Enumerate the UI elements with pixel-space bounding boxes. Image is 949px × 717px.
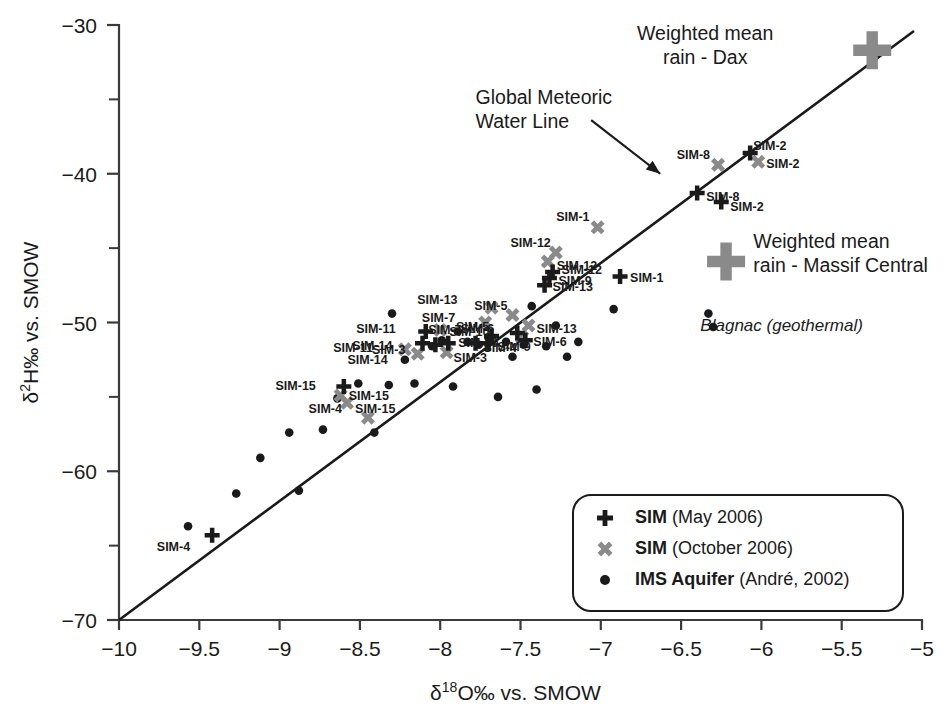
legend-entry[interactable]: IMS Aquifer (André, 2002) [600,569,849,589]
x-tick-label: −10 [101,637,137,660]
sim-may-marker [205,528,220,543]
y-tick-label: −70 [61,609,97,632]
figure-container: −10−9.5−9−8.5−8−7.5−7−6.5−6−5.5−5−30−40−… [0,0,949,717]
ims-aquifer-dot [609,305,618,314]
sim-point-label: SIM-1 [630,271,663,285]
sim-point-label: SIM-13 [417,293,457,307]
sim-point-label: SIM-4 [309,402,342,416]
y-tick-label: −50 [61,312,97,335]
ims-aquifer-dot [563,352,572,361]
weighted-mean-rain-label: Weighted meanrain - Massif Central [753,230,927,276]
sim-point-label: SIM-2 [730,200,763,214]
legend-entry-label: IMS Aquifer (André, 2002) [635,569,849,589]
x-tick-label: −6 [749,637,773,660]
sim-point-label: SIM-6 [533,335,566,349]
ims-aquifer-dot [319,425,328,434]
sim-october-marker [707,154,728,175]
sim-point-label: SIM-12 [562,263,602,277]
ims-aquifer-dot [574,338,583,347]
ims-aquifer-dot [449,382,458,391]
sim-point-label: SIM-3 [454,351,487,365]
y-tick-label: −40 [61,163,97,186]
legend-entry-label: SIM (October 2006) [635,538,793,558]
sim-point-label: SIM-4 [157,540,190,554]
ims-aquifer-dot [385,381,394,390]
annotation-arrow-head [646,161,660,174]
y-tick-label: −60 [61,460,97,483]
x-tick-label: −7.5 [500,637,541,660]
sim-sample-points: SIM-4SIM-15SIM-15SIM-11SIM-14SIM-3SIM-10… [157,139,800,554]
ims-aquifer-dot [354,379,363,388]
sim-point-label: SIM-15 [276,379,316,393]
ims-aquifer-dot [285,428,294,437]
ims-aquifer-dot [410,379,419,388]
plot-annotations: Global MeteoricWater LineBlagnac (geothe… [476,86,863,336]
x-tick-label: −8 [428,637,452,660]
legend-dot-icon [600,575,610,585]
ims-aquifer-dot [388,309,397,318]
sim-point-label: SIM-2 [753,139,786,153]
sim-point-label: SIM-8 [677,148,710,162]
ims-aquifer-dot [295,486,304,495]
ims-aquifer-dot [184,522,193,531]
x-tick-label: −6.5 [660,637,701,660]
x-tick-label: −7 [589,637,613,660]
chart-legend: SIM (May 2006)SIM (October 2006)IMS Aqui… [573,495,903,611]
y-tick-label: −30 [61,14,97,37]
x-tick-label: −8.5 [339,637,380,660]
gmwl-annotation: Global MeteoricWater Line [476,86,613,132]
sim-point-label: SIM-5 [456,320,489,334]
x-tick-label: −9.5 [179,637,220,660]
sim-point-label: SIM-15 [355,402,395,416]
sim-point-label: SIM-12 [511,236,551,250]
ims-aquifer-dot [256,454,265,463]
sim-point-label: SIM-3 [372,343,405,357]
weighted-mean-rain-marker [707,243,745,281]
ims-aquifer-dot [494,393,503,402]
sim-may-marker [613,269,628,284]
y-axis-title: δ2H‰ vs. SMOW [17,241,42,403]
sim-october-marker [587,217,608,238]
x-axis-title: δ18O‰ vs. SMOW [430,679,601,704]
x-tick-label: −5.5 [821,637,862,660]
ims-aquifer-dot [232,489,241,498]
weighted-mean-rain-label: Weighted meanrain - Dax [637,22,773,68]
blagnac-annotation: Blagnac (geothermal) [700,316,863,335]
sim-point-label: SIM-11 [356,322,396,336]
ims-aquifer-dot [370,428,379,437]
x-tick-label: −5 [910,637,934,660]
scatter-plot: −10−9.5−9−8.5−8−7.5−7−6.5−6−5.5−5−30−40−… [0,0,949,717]
sim-point-label: SIM-1 [556,210,589,224]
x-tick-label: −9 [268,637,292,660]
ims-aquifer-dot [532,385,541,394]
weighted-mean-rain-marker [853,31,891,69]
sim-point-label: SIM-5 [474,299,507,313]
sim-point-label: SIM-9 [497,340,530,354]
ims-aquifer-dot [527,302,536,311]
legend-entry-label: SIM (May 2006) [635,507,763,527]
sim-point-label: SIM-2 [766,157,799,171]
